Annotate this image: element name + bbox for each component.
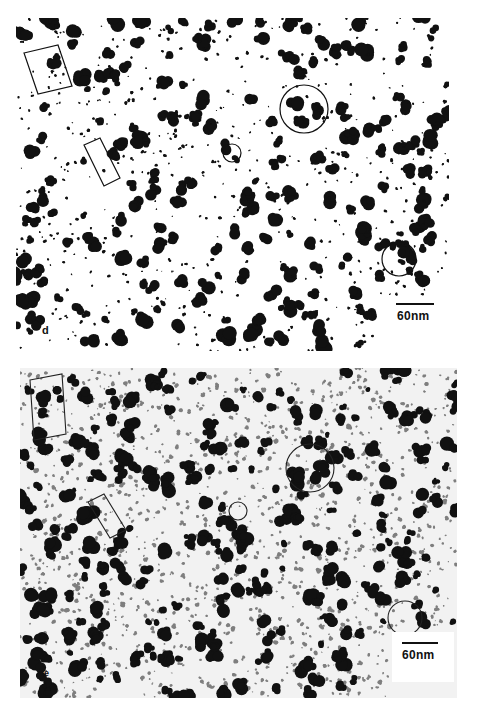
micrograph-panel-e: 60nm e xyxy=(20,368,457,698)
scale-label-e: 60nm xyxy=(402,648,435,662)
scale-bar-d xyxy=(396,303,434,305)
scale-bar-e xyxy=(402,642,438,644)
scale-label-d: 60nm xyxy=(397,309,430,323)
panel-label-d: d xyxy=(42,324,49,336)
panel-label-e: e xyxy=(44,668,49,678)
micrograph-panel-d: 60nm d xyxy=(16,18,449,351)
